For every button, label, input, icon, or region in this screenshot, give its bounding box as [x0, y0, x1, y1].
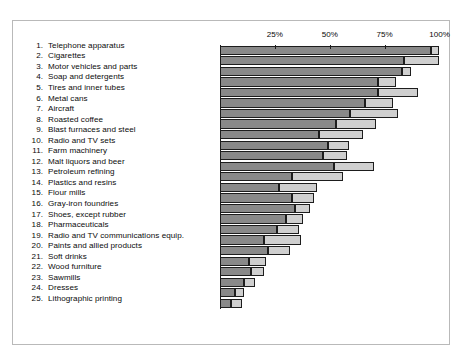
category-name: Petroleum refining — [48, 167, 204, 176]
category-label-row: 11.Farm machinery — [21, 145, 204, 156]
category-name: Wood furniture — [48, 262, 204, 271]
bar-row — [208, 214, 444, 225]
category-label-row: 14.Plastics and resins — [21, 177, 204, 188]
bar-segment-primary — [220, 141, 328, 150]
bar-segment-secondary — [402, 67, 411, 76]
category-label-row: 12.Malt liquors and beer — [21, 156, 204, 167]
bar-row — [208, 108, 444, 119]
category-rank: 10. — [21, 136, 48, 145]
bar-segment-secondary — [249, 257, 267, 266]
category-rank: 12. — [21, 157, 48, 166]
bar-row — [208, 56, 444, 67]
category-label-row: 1.Telephone apparatus — [21, 40, 204, 51]
bar-segment-primary — [220, 98, 365, 107]
category-label-row: 2.Cigarettes — [21, 51, 204, 62]
category-label-row: 23.Sawmills — [21, 272, 204, 283]
bar-segment-primary — [220, 56, 404, 65]
category-name: Soft drinks — [48, 252, 204, 261]
bar-row — [208, 224, 444, 235]
x-axis-tick-label: 75% — [377, 30, 393, 39]
bar-row — [208, 256, 444, 267]
category-name: Paints and allied products — [48, 241, 204, 250]
category-rank: 25. — [21, 294, 48, 303]
category-rank: 2. — [21, 51, 48, 60]
bar-row — [208, 245, 444, 256]
bar-segment-primary — [220, 88, 378, 97]
category-rank: 5. — [21, 83, 48, 92]
category-rank: 18. — [21, 220, 48, 229]
bar-segment-secondary — [365, 98, 394, 107]
category-label-row: 22.Wood furniture — [21, 261, 204, 272]
category-label-row: 20.Paints and allied products — [21, 240, 204, 251]
category-rank: 1. — [21, 41, 48, 50]
bar-segment-primary — [220, 257, 249, 266]
plot-area: 25%50%75%100% — [208, 26, 444, 336]
category-label-row: 15.Flour mills — [21, 188, 204, 199]
category-name: Gray-iron foundries — [48, 199, 204, 208]
bar-segment-primary — [220, 67, 402, 76]
bar-row — [208, 87, 444, 98]
bar-row — [208, 119, 444, 130]
bar-row — [208, 161, 444, 172]
category-rank: 9. — [21, 125, 48, 134]
category-name: Plastics and resins — [48, 178, 204, 187]
category-rank: 21. — [21, 252, 48, 261]
bar-row — [208, 98, 444, 109]
category-label-row: 21.Soft drinks — [21, 251, 204, 262]
category-label-row: 8.Roasted coffee — [21, 114, 204, 125]
bar-segment-secondary — [292, 193, 314, 202]
category-rank: 23. — [21, 273, 48, 282]
category-rank: 6. — [21, 94, 48, 103]
bar-row — [208, 193, 444, 204]
bar-row — [208, 182, 444, 193]
category-label-row: 25.Lithographic printing — [21, 293, 204, 304]
category-name: Dresses — [48, 283, 204, 292]
bar-segment-primary — [220, 46, 431, 55]
bar-segment-primary — [220, 183, 279, 192]
category-rank: 11. — [21, 146, 48, 155]
bar-segment-primary — [220, 246, 268, 255]
category-label-row: 19.Radio and TV communications equip. — [21, 230, 204, 241]
category-name: Radio and TV communications equip. — [48, 231, 204, 240]
category-label-row: 5.Tires and inner tubes — [21, 82, 204, 93]
bar-row — [208, 172, 444, 183]
bar-segment-primary — [220, 214, 286, 223]
bar-segment-secondary — [244, 278, 255, 287]
bar-segment-primary — [220, 278, 244, 287]
bar-segment-secondary — [286, 214, 304, 223]
bar-row — [208, 298, 444, 309]
bar-segment-secondary — [378, 77, 396, 86]
bar-segment-primary — [220, 193, 292, 202]
category-name: Motor vehicles and parts — [48, 62, 204, 71]
category-rank: 16. — [21, 199, 48, 208]
bar-segment-secondary — [328, 141, 350, 150]
category-name: Malt liquors and beer — [48, 157, 204, 166]
category-rank: 17. — [21, 210, 48, 219]
bar-segment-secondary — [251, 267, 264, 276]
category-label-row: 3.Motor vehicles and parts — [21, 61, 204, 72]
bar-segment-secondary — [319, 130, 363, 139]
category-name: Flour mills — [48, 188, 204, 197]
x-axis-tick-mark — [275, 45, 276, 49]
category-rank: 14. — [21, 178, 48, 187]
bar-segment-primary — [220, 288, 235, 297]
category-rank: 7. — [21, 104, 48, 113]
x-axis-tick-label: 100% — [429, 30, 450, 39]
category-label-row: 10.Radio and TV sets — [21, 135, 204, 146]
bar-row — [208, 77, 444, 88]
category-label-column: 1.Telephone apparatus2.Cigarettes3.Motor… — [21, 40, 204, 304]
bar-segment-secondary — [431, 46, 440, 55]
x-axis-tick-label: 25% — [267, 30, 283, 39]
category-label-row: 4.Soap and detergents — [21, 72, 204, 83]
bar-segment-secondary — [231, 299, 242, 308]
category-label-row: 17.Shoes, except rubber — [21, 209, 204, 220]
bar-segment-primary — [220, 77, 378, 86]
bar-segment-secondary — [277, 225, 299, 234]
category-label-row: 7.Aircraft — [21, 103, 204, 114]
bar-segment-secondary — [292, 172, 342, 181]
category-rank: 22. — [21, 262, 48, 271]
category-name: Metal cans — [48, 94, 204, 103]
category-label-row: 16.Gray-iron foundries — [21, 198, 204, 209]
category-name: Aircraft — [48, 104, 204, 113]
chart-figure: 1.Telephone apparatus2.Cigarettes3.Motor… — [12, 20, 450, 345]
